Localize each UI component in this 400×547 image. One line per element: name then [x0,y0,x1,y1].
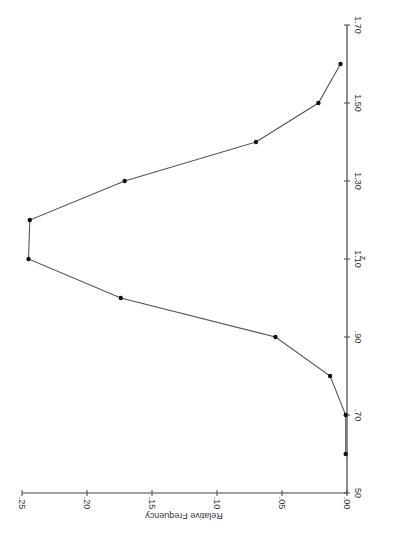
frequency-tick-label: .00 [342,497,352,510]
relative-frequency-chart: 50.70.901.101.301.501.70 .00.05.10.15.20… [0,0,400,547]
data-point-marker [26,257,30,261]
z-tick-label: .70 [353,409,363,422]
data-point-marker [344,452,348,456]
z-tick-label: 1.70 [353,16,363,34]
data-point-marker [344,413,348,417]
frequency-tick-label: .10 [212,497,222,510]
data-point-marker [254,140,258,144]
z-axis-label: z [358,256,368,261]
z-tick-label: 50 [353,488,363,498]
frequency-tick-label: .05 [277,497,287,510]
frequency-polygon-line [29,64,346,454]
z-tick-label: 1.50 [353,94,363,112]
data-point-marker [123,179,127,183]
data-point-marker [316,101,320,105]
axes [22,25,347,493]
data-point-marker [273,335,277,339]
data-point-marker [328,374,332,378]
frequency-tick-label: .15 [147,497,157,510]
data-point-marker [28,218,32,222]
frequency-tick-label: .20 [82,497,92,510]
z-tick-label: 1.30 [353,172,363,190]
data-point-marker [338,62,342,66]
data-point-marker [119,296,123,300]
frequency-tick-label: .25 [17,497,27,510]
data-points [26,62,348,456]
z-tick-label: .90 [353,331,363,344]
frequency-axis-label: Relative Frequency [145,511,223,521]
